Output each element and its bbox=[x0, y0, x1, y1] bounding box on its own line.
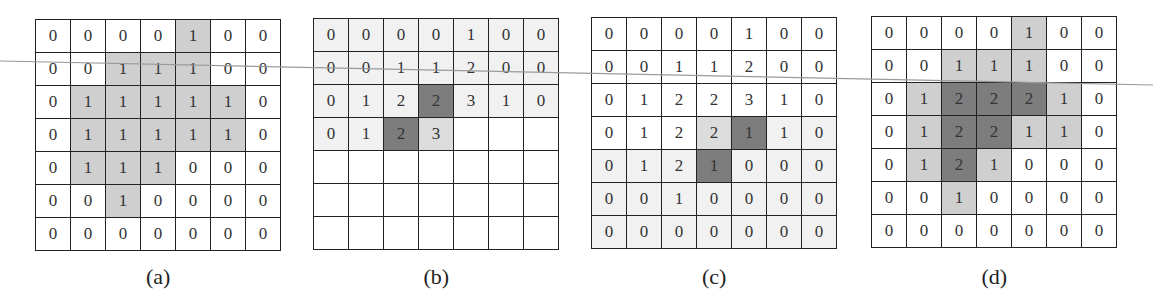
grid-cell: 0 bbox=[489, 19, 524, 52]
grid-cell: 2 bbox=[662, 84, 697, 117]
grid-cell: 0 bbox=[1082, 50, 1117, 83]
grid-cell: 0 bbox=[802, 216, 837, 249]
grid-cell: 0 bbox=[627, 51, 662, 84]
grid-cell: 0 bbox=[1047, 149, 1082, 182]
grid-cell: 2 bbox=[697, 84, 732, 117]
grid-cell: 0 bbox=[314, 19, 349, 52]
grid-cell: 3 bbox=[732, 84, 767, 117]
grid-cell bbox=[524, 118, 559, 151]
grid-cell: 0 bbox=[1012, 182, 1047, 215]
grid-cell: 0 bbox=[697, 216, 732, 249]
grid-cell: 1 bbox=[489, 85, 524, 118]
grid-cell bbox=[349, 217, 384, 250]
grid-cell: 2 bbox=[1012, 83, 1047, 116]
grid-cell: 0 bbox=[977, 215, 1012, 248]
grid-cell: 1 bbox=[977, 50, 1012, 83]
grid-cell bbox=[419, 184, 454, 217]
grid-cell: 0 bbox=[524, 85, 559, 118]
grid-cell: 0 bbox=[872, 182, 907, 215]
grid-cell: 0 bbox=[1012, 149, 1047, 182]
grid-cell: 1 bbox=[627, 117, 662, 150]
grid-cell: 0 bbox=[1082, 17, 1117, 50]
grid-cell: 0 bbox=[1047, 50, 1082, 83]
grid-cell: 0 bbox=[802, 18, 837, 51]
grid-cell: 1 bbox=[697, 51, 732, 84]
grid-cell: 0 bbox=[592, 216, 627, 249]
grid-cell: 1 bbox=[1047, 83, 1082, 116]
panel-d: 0000100001110001222100122110012100000100… bbox=[0, 0, 260, 300]
grid-cell: 0 bbox=[732, 183, 767, 216]
grid-cell: 1 bbox=[977, 149, 1012, 182]
grid-cell: 0 bbox=[767, 51, 802, 84]
grid-cell: 0 bbox=[592, 51, 627, 84]
grid-cell: 3 bbox=[419, 118, 454, 151]
grid-cell: 0 bbox=[1082, 116, 1117, 149]
grid-cell bbox=[454, 217, 489, 250]
grid-cell: 1 bbox=[1047, 116, 1082, 149]
grid-cell: 2 bbox=[662, 117, 697, 150]
grid-cell: 0 bbox=[697, 18, 732, 51]
grid-cell: 0 bbox=[349, 19, 384, 52]
grid-cell: 0 bbox=[489, 52, 524, 85]
grid-cell: 0 bbox=[314, 52, 349, 85]
grid-cell bbox=[349, 151, 384, 184]
grid-cell: 0 bbox=[1082, 83, 1117, 116]
grid-cell: 0 bbox=[419, 19, 454, 52]
grid-cell: 0 bbox=[907, 182, 942, 215]
grid-cell: 0 bbox=[592, 150, 627, 183]
grid-cell: 1 bbox=[349, 118, 384, 151]
grid-cell bbox=[314, 184, 349, 217]
grid-cell: 1 bbox=[1012, 17, 1047, 50]
grid-cell bbox=[384, 217, 419, 250]
grid-cell bbox=[489, 151, 524, 184]
grid-cell: 0 bbox=[627, 183, 662, 216]
grid-cell: 0 bbox=[872, 17, 907, 50]
grid-cell: 1 bbox=[907, 83, 942, 116]
grid-cell bbox=[419, 217, 454, 250]
grid-cell: 1 bbox=[384, 52, 419, 85]
grid-cell: 1 bbox=[1012, 50, 1047, 83]
grid-cell: 0 bbox=[907, 17, 942, 50]
grid-cell: 1 bbox=[732, 18, 767, 51]
grid-cell: 2 bbox=[384, 118, 419, 151]
grid-cell: 2 bbox=[942, 149, 977, 182]
grid-cell: 0 bbox=[767, 183, 802, 216]
grid-cell: 0 bbox=[802, 183, 837, 216]
grid-cell: 2 bbox=[977, 83, 1012, 116]
grid-cell: 2 bbox=[384, 85, 419, 118]
grid-cell bbox=[384, 151, 419, 184]
grid-cell: 1 bbox=[349, 85, 384, 118]
grid-b: 0000100001120001223100123 bbox=[313, 18, 559, 250]
grid-cell: 0 bbox=[977, 17, 1012, 50]
grid-cell: 0 bbox=[872, 149, 907, 182]
grid-cell: 1 bbox=[1012, 116, 1047, 149]
grid-cell: 0 bbox=[627, 18, 662, 51]
grid-cell: 0 bbox=[767, 150, 802, 183]
grid-cell: 0 bbox=[1082, 149, 1117, 182]
grid-cell: 0 bbox=[872, 50, 907, 83]
grid-cell: 0 bbox=[592, 117, 627, 150]
grid-cell bbox=[489, 118, 524, 151]
grid-cell: 1 bbox=[697, 150, 732, 183]
grid-cell: 0 bbox=[732, 150, 767, 183]
caption-b: (b) bbox=[396, 264, 476, 290]
grid-cell: 0 bbox=[1047, 215, 1082, 248]
grid-cell bbox=[454, 151, 489, 184]
grid-cell: 0 bbox=[942, 17, 977, 50]
grid-cell bbox=[489, 184, 524, 217]
grid-cell: 2 bbox=[419, 85, 454, 118]
grid-cell: 0 bbox=[627, 216, 662, 249]
grid-cell: 3 bbox=[454, 85, 489, 118]
grid-cell: 1 bbox=[662, 183, 697, 216]
grid-cell: 0 bbox=[1047, 17, 1082, 50]
grid-c: 0000100001120001223100122110012100000100… bbox=[591, 17, 837, 249]
grid-cell: 0 bbox=[592, 18, 627, 51]
grid-cell: 0 bbox=[662, 18, 697, 51]
grid-cell bbox=[454, 118, 489, 151]
grid-cell bbox=[349, 184, 384, 217]
grid-cell: 1 bbox=[627, 150, 662, 183]
grid-cell: 1 bbox=[767, 117, 802, 150]
grid-cell: 0 bbox=[802, 117, 837, 150]
grid-cell: 0 bbox=[802, 51, 837, 84]
grid-cell: 0 bbox=[802, 84, 837, 117]
